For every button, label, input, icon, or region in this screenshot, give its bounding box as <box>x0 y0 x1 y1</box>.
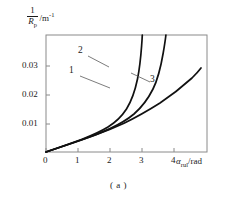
curve-label-3: 3 <box>150 75 155 85</box>
y-axis-denominator: Rp <box>27 17 38 28</box>
curve-series-2 <box>46 35 142 152</box>
chart-plot-area <box>0 0 237 204</box>
x-axis-subscript: rul <box>181 161 188 168</box>
y-axis-title: 1 Rp /m-1 <box>27 6 54 28</box>
curve-label-1: 1 <box>69 66 74 76</box>
figure-panel-a: 0.03 0.02 0.01 0 1 2 3 4 1 2 3 1 Rp /m-1… <box>0 0 237 204</box>
y-axis-unit: /m-1 <box>40 12 55 23</box>
curve-label-2: 2 <box>78 46 83 56</box>
leader-line-2 <box>88 56 109 67</box>
y-axis-numerator: 1 <box>29 6 36 15</box>
x-tick-label-3: 3 <box>139 156 144 165</box>
x-tick-label-2: 2 <box>107 156 112 165</box>
leader-line-1 <box>80 76 110 88</box>
figure-caption: ( a ) <box>0 180 237 190</box>
x-tick-label-0: 0 <box>43 156 48 165</box>
x-tick-label-1: 1 <box>75 156 80 165</box>
leader-line-3 <box>131 73 150 82</box>
x-axis-unit: /rad <box>188 156 202 166</box>
y-tick-label-0.03: 0.03 <box>22 61 38 70</box>
x-tick-label-4: 4 <box>171 156 176 165</box>
y-axis-fraction: 1 Rp <box>27 6 38 28</box>
y-tick-label-0.01: 0.01 <box>22 119 38 128</box>
y-tick-label-0.02: 0.02 <box>22 90 38 99</box>
curve-series-1 <box>46 35 166 152</box>
x-axis-ticks <box>46 148 174 152</box>
y-axis-ticks <box>46 66 50 124</box>
plot-frame <box>46 35 207 152</box>
x-axis-title: αrul/rad <box>176 156 202 168</box>
curve-series-3 <box>46 68 201 152</box>
